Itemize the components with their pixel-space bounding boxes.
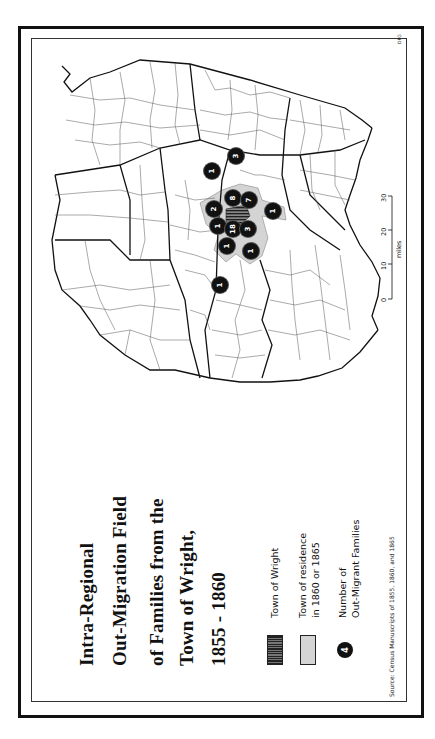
count-marker-value: 2 <box>210 207 218 212</box>
count-marker-value: 3 <box>244 227 252 232</box>
title-line-5: 1855 - 1860 <box>208 572 230 666</box>
legend-count-symbol: 4 <box>337 642 353 658</box>
count-marker: 1 <box>219 238 235 254</box>
scale-tick-0: 0 <box>380 298 388 302</box>
count-marker: 2 <box>206 201 222 217</box>
source-note: Source: Census Manuscripts of 1855, 1860… <box>388 536 395 697</box>
count-marker: 3 <box>228 148 244 164</box>
legend-label-count: Number of Out-Migrant Families <box>336 520 362 618</box>
count-marker-value: 1 <box>216 283 224 288</box>
count-marker: 1 <box>265 203 281 219</box>
scale-unit: miles <box>395 241 403 258</box>
title-line-4: Town of Wright, <box>176 530 198 666</box>
legend-swatch-wright <box>267 635 283 665</box>
count-marker: 18 <box>225 221 241 237</box>
legend-label-residence: Town of residence in 1860 or 1865 <box>296 533 322 618</box>
count-marker: 1 <box>212 277 228 293</box>
scale-bar <box>388 196 392 299</box>
legend-swatch-residence <box>300 635 316 665</box>
title-line-2: Out-Migration Field <box>109 496 131 666</box>
count-marker: 1 <box>243 243 259 259</box>
count-marker: 7 <box>241 192 257 208</box>
scale-tick-20: 20 <box>380 228 388 236</box>
count-marker-value: 1 <box>214 224 222 229</box>
title-line-1: Intra-Regional <box>76 543 98 666</box>
count-marker-value: 1 <box>223 244 231 249</box>
count-marker-value: 1 <box>208 169 216 174</box>
count-marker-value: 1 <box>269 209 277 214</box>
scale-tick-30: 30 <box>380 194 388 202</box>
count-marker-value: 3 <box>232 154 240 159</box>
count-marker-value: 18 <box>229 224 237 234</box>
count-marker-value: 1 <box>247 249 255 254</box>
count-marker: 3 <box>240 221 256 237</box>
count-marker: 1 <box>204 163 220 179</box>
title-line-3: of Families from the <box>146 498 168 666</box>
count-marker: 8 <box>225 190 241 206</box>
scale-tick-10: 10 <box>380 262 388 270</box>
legend-label-wright: Town of Wright <box>268 548 281 618</box>
count-marker-value: 7 <box>245 198 253 203</box>
count-marker-value: 8 <box>229 196 237 201</box>
count-marker: 1 <box>210 218 226 234</box>
map-credit: DPG <box>397 34 402 44</box>
